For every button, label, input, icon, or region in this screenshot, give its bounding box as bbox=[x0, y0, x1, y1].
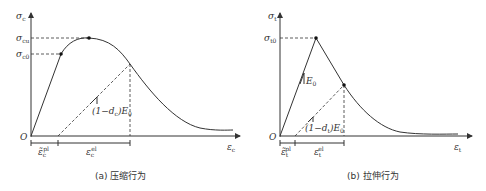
slope-triangle-b bbox=[308, 117, 313, 122]
origin-label-b: O bbox=[269, 132, 277, 142]
damage-plasticity-diagram: σc σcu σc0 O εc (1−dc)E0 ε̃cpl εcel (a) … bbox=[0, 0, 486, 191]
peak-point-cu bbox=[87, 36, 91, 40]
caption-b: (b) 拉伸行为 bbox=[347, 170, 399, 181]
panel-b-tension: σt σt0 O εt E0 (1−dt)E0 ε̃tpl εtel (b) 拉… bbox=[264, 11, 472, 181]
slope-label-a: (1−dc)E0 bbox=[92, 106, 132, 117]
elastic-strain-label-b: εtel bbox=[314, 145, 324, 158]
slope-label-b: (1−dt)E0 bbox=[305, 123, 344, 134]
tension-curve bbox=[280, 38, 458, 136]
sigma-c0-label: σc0 bbox=[16, 49, 30, 60]
peak-point-t0 bbox=[314, 36, 318, 40]
x-axis-label-a: εc bbox=[227, 142, 236, 153]
unloading-point-b bbox=[342, 83, 346, 87]
origin-label-a: O bbox=[20, 132, 28, 142]
sigma-t0-label: σt0 bbox=[264, 33, 277, 44]
plastic-strain-label-b: ε̃tpl bbox=[281, 145, 291, 158]
y-axis-label-a: σc bbox=[16, 11, 26, 22]
y-axis-label-b: σt bbox=[268, 11, 277, 22]
panel-a-compression: σc σcu σc0 O εc (1−dc)E0 ε̃cpl εcel (a) … bbox=[16, 11, 240, 181]
elastic-strain-label-a: εcel bbox=[86, 145, 97, 158]
slope-triangle-a bbox=[90, 97, 97, 104]
sigma-cu-label: σcu bbox=[16, 33, 30, 44]
caption-a: (a) 压缩行为 bbox=[95, 170, 146, 181]
x-axis-label-b: εt bbox=[454, 142, 462, 153]
yield-point-c0 bbox=[59, 52, 63, 56]
e0-label: E0 bbox=[305, 76, 317, 87]
plastic-strain-label-a: ε̃cpl bbox=[38, 145, 49, 158]
